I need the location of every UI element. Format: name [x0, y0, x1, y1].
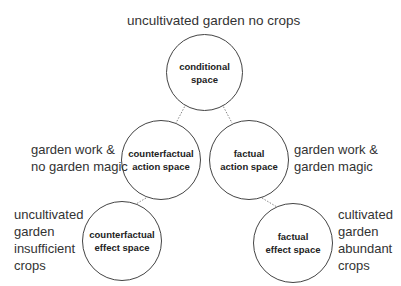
- factual-action-description: garden work & garden magic: [294, 141, 378, 175]
- factual-effect-space-node: factual effect space: [253, 203, 333, 283]
- node-label-line: counterfactual: [128, 147, 193, 160]
- counterfactual-action-description: garden work & no garden magic: [31, 141, 128, 175]
- node-label-line: factual: [220, 147, 278, 160]
- description-line: insufficient: [14, 240, 83, 257]
- counterfactual-action-space-node: counterfactual action space: [121, 120, 201, 200]
- node-label-line: space: [179, 73, 230, 86]
- factual-effect-description: cultivated garden abundant crops: [338, 206, 393, 274]
- factual-action-space-node: factual action space: [209, 120, 289, 200]
- description-line: no garden magic: [31, 158, 128, 175]
- edge-factual-action-to-effect: [262, 198, 277, 207]
- node-label-line: action space: [128, 160, 193, 173]
- description-line: cultivated: [338, 206, 393, 223]
- node-label-line: factual: [266, 230, 321, 243]
- conditional-space-node: conditional space: [166, 34, 243, 111]
- edge-conditional-to-factual-action: [222, 104, 232, 123]
- top-label: uncultivated garden no crops: [127, 12, 300, 29]
- description-line: garden work &: [294, 141, 378, 158]
- edge-conditional-to-counterfactual-action: [176, 104, 186, 123]
- node-label-line: action space: [220, 160, 278, 173]
- node-label-line: effect space: [89, 241, 154, 254]
- description-line: garden: [14, 223, 83, 240]
- description-line: uncultivated: [14, 206, 83, 223]
- description-line: garden work &: [31, 141, 128, 158]
- description-line: garden magic: [294, 158, 378, 175]
- description-line: crops: [14, 257, 83, 274]
- node-label-line: counterfactual: [89, 228, 154, 241]
- node-label-line: conditional: [179, 60, 230, 73]
- description-line: abundant: [338, 240, 393, 257]
- counterfactual-effect-description: uncultivated garden insufficient crops: [14, 206, 83, 274]
- counterfactual-effect-space-node: counterfactual effect space: [82, 201, 162, 281]
- description-line: garden: [338, 223, 393, 240]
- description-line: crops: [338, 257, 393, 274]
- edge-counterfactual-action-to-effect: [136, 198, 146, 204]
- node-label-line: effect space: [266, 243, 321, 256]
